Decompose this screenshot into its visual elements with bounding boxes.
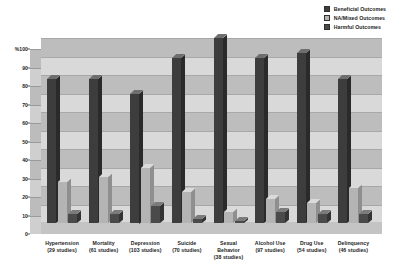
bar-front-face xyxy=(182,192,191,223)
bar-side-face xyxy=(160,203,164,223)
bar-side-face xyxy=(223,35,227,223)
bar-front-face xyxy=(297,53,306,223)
bar-group xyxy=(172,49,214,223)
bar-front-face xyxy=(235,221,244,223)
bar-harmful-outcomes xyxy=(276,212,285,223)
bar-front-face xyxy=(172,58,181,223)
bar-group xyxy=(47,49,89,223)
bar-chart: Beneficial Outcomes NA/Mixed Outcomes Ha… xyxy=(0,0,394,275)
bar-front-face xyxy=(110,214,119,223)
bar-harmful-outcomes xyxy=(110,214,119,223)
bar-front-face xyxy=(349,188,358,223)
bar-beneficial-outcomes xyxy=(338,79,347,223)
bar-front-face xyxy=(141,168,150,224)
bar-harmful-outcomes xyxy=(151,206,160,223)
plot-area xyxy=(30,38,382,234)
bar-harmful-outcomes xyxy=(193,219,202,223)
bar-front-face xyxy=(276,212,285,223)
bar-harmful-outcomes xyxy=(318,214,327,223)
legend-swatch-beneficial xyxy=(324,6,330,12)
bar-harmful-outcomes xyxy=(359,214,368,223)
bar-group xyxy=(255,49,297,223)
legend-label-harmful: Harmful Outcomes xyxy=(334,24,381,31)
bar-front-face xyxy=(89,79,98,223)
x-axis-study-count: (38 studies) xyxy=(203,254,255,261)
bar-group xyxy=(338,49,380,223)
x-axis-study-count: (46 studies) xyxy=(327,247,379,254)
bar-na-mixed-outcomes xyxy=(224,212,233,223)
legend-item-beneficial: Beneficial Outcomes xyxy=(324,5,386,13)
bar-front-face xyxy=(318,214,327,223)
bar-group xyxy=(214,49,256,223)
bar-front-face xyxy=(68,214,77,223)
x-axis-labels: Hypertension(29 studies)Mortality(61 stu… xyxy=(30,238,382,274)
bar-harmful-outcomes xyxy=(235,221,244,223)
bar-na-mixed-outcomes xyxy=(307,203,316,223)
bar-na-mixed-outcomes xyxy=(182,192,191,223)
legend-label-na-mixed: NA/Mixed Outcomes xyxy=(334,15,385,22)
bar-front-face xyxy=(307,203,316,223)
bar-front-face xyxy=(338,79,347,223)
bar-front-face xyxy=(255,58,264,223)
legend-swatch-harmful xyxy=(324,24,330,30)
legend-item-na-mixed: NA/Mixed Outcomes xyxy=(324,14,386,22)
bar-harmful-outcomes xyxy=(68,214,77,223)
bars-layer xyxy=(30,38,382,234)
y-axis: %1009080706050403020100 xyxy=(0,38,30,234)
bar-na-mixed-outcomes xyxy=(141,168,150,224)
bar-front-face xyxy=(130,94,139,224)
bar-front-face xyxy=(224,212,233,223)
bar-na-mixed-outcomes xyxy=(349,188,358,223)
bar-beneficial-outcomes xyxy=(214,38,223,223)
x-axis-category-name: Delinquency xyxy=(327,240,379,247)
bar-na-mixed-outcomes xyxy=(99,177,108,223)
bar-front-face xyxy=(266,199,275,223)
bar-front-face xyxy=(99,177,108,223)
bar-front-face xyxy=(359,214,368,223)
bar-beneficial-outcomes xyxy=(89,79,98,223)
bar-front-face xyxy=(47,79,56,223)
bar-beneficial-outcomes xyxy=(172,58,181,223)
bar-beneficial-outcomes xyxy=(47,79,56,223)
legend-swatch-na-mixed xyxy=(324,15,330,21)
bar-beneficial-outcomes xyxy=(297,53,306,223)
x-axis-label: Delinquency(46 studies) xyxy=(327,240,379,254)
bar-na-mixed-outcomes xyxy=(266,199,275,223)
bar-side-face xyxy=(306,49,310,223)
bar-group xyxy=(89,49,131,223)
bar-group xyxy=(297,49,339,223)
chart-legend: Beneficial Outcomes NA/Mixed Outcomes Ha… xyxy=(324,5,386,31)
bar-front-face xyxy=(193,219,202,223)
bar-front-face xyxy=(214,38,223,223)
bar-na-mixed-outcomes xyxy=(58,182,67,223)
bar-group xyxy=(130,49,172,223)
bar-beneficial-outcomes xyxy=(130,94,139,224)
bar-front-face xyxy=(151,206,160,223)
legend-label-beneficial: Beneficial Outcomes xyxy=(334,6,386,13)
legend-item-harmful: Harmful Outcomes xyxy=(324,23,386,31)
bar-front-face xyxy=(58,182,67,223)
bar-beneficial-outcomes xyxy=(255,58,264,223)
